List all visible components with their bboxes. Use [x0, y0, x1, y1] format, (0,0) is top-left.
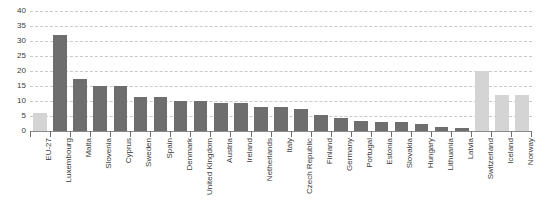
- bar[interactable]: [274, 107, 288, 131]
- bar[interactable]: [314, 115, 328, 132]
- x-label-cell: EU-27: [30, 137, 50, 212]
- y-tick-label: 15: [0, 82, 26, 90]
- bar-slot: [130, 2, 150, 131]
- x-axis-labels: EU-27LuxembourgMaltaSloveniaCyprusSweden…: [30, 137, 532, 212]
- bar[interactable]: [475, 71, 489, 131]
- bar-slot: [391, 2, 411, 131]
- y-tick-label: 20: [0, 67, 26, 75]
- bar-slot: [50, 2, 70, 131]
- bar-slot: [411, 2, 431, 131]
- x-label-cell: Portugal: [351, 137, 371, 212]
- bar[interactable]: [375, 122, 389, 131]
- bar[interactable]: [134, 97, 148, 132]
- x-label-cell: Switzerland: [472, 137, 492, 212]
- x-label-cell: Iceland: [492, 137, 512, 212]
- bar[interactable]: [354, 121, 368, 132]
- y-tick-label: 25: [0, 52, 26, 60]
- bar[interactable]: [515, 95, 529, 131]
- bar-slot: [70, 2, 90, 131]
- bar-slot: [231, 2, 251, 131]
- plot-area: [30, 2, 532, 131]
- bar-slot: [30, 2, 50, 131]
- x-label-cell: Finland: [311, 137, 331, 212]
- bar[interactable]: [33, 113, 47, 131]
- x-label-cell: Germany: [331, 137, 351, 212]
- x-label-cell: Sweden: [130, 137, 150, 212]
- x-label-cell: Latvia: [452, 137, 472, 212]
- x-label-cell: Lithuania: [432, 137, 452, 212]
- bar-slot: [171, 2, 191, 131]
- y-axis: 0510152025303540: [0, 2, 26, 131]
- bar-slot: [472, 2, 492, 131]
- bar-slot: [291, 2, 311, 131]
- x-axis-label: Norway: [526, 138, 535, 165]
- bar-slot: [90, 2, 110, 131]
- y-tick-label: 35: [0, 22, 26, 30]
- x-label-cell: Spain: [150, 137, 170, 212]
- bar[interactable]: [294, 109, 308, 132]
- bar-slot: [211, 2, 231, 131]
- x-label-cell: Cyprus: [110, 137, 130, 212]
- y-tick-label: 30: [0, 37, 26, 45]
- bar[interactable]: [93, 86, 107, 131]
- bar[interactable]: [154, 97, 168, 132]
- bar[interactable]: [254, 107, 268, 131]
- bar-slot: [311, 2, 331, 131]
- y-tick-label: 10: [0, 97, 26, 105]
- x-label-cell: Netherlands: [251, 137, 271, 212]
- x-label-cell: Austria: [211, 137, 231, 212]
- x-axis: EU-27LuxembourgMaltaSloveniaCyprusSweden…: [30, 131, 532, 212]
- bar-chart: 0510152025303540 EU-27LuxembourgMaltaSlo…: [0, 0, 536, 212]
- x-label-cell: Malta: [70, 137, 90, 212]
- x-label-cell: Estonia: [371, 137, 391, 212]
- bar[interactable]: [53, 35, 67, 131]
- bar-slot: [432, 2, 452, 131]
- bar-slot: [251, 2, 271, 131]
- bar[interactable]: [415, 124, 429, 132]
- bar[interactable]: [214, 103, 228, 132]
- bar[interactable]: [234, 103, 248, 132]
- bar-slot: [271, 2, 291, 131]
- x-label-cell: Norway: [512, 137, 532, 212]
- y-tick-label: 40: [0, 7, 26, 15]
- bar[interactable]: [495, 95, 509, 131]
- bar-slot: [351, 2, 371, 131]
- x-label-cell: Slovakia: [391, 137, 411, 212]
- bar-slot: [191, 2, 211, 131]
- x-label-cell: Slovenia: [90, 137, 110, 212]
- bar[interactable]: [73, 79, 87, 132]
- x-label-cell: Denmark: [171, 137, 191, 212]
- x-label-cell: United Kingdom: [191, 137, 211, 212]
- bar-slot: [331, 2, 351, 131]
- bar[interactable]: [395, 122, 409, 131]
- bar[interactable]: [334, 118, 348, 132]
- bar-slot: [110, 2, 130, 131]
- bar[interactable]: [174, 101, 188, 131]
- y-tick-label: 5: [0, 112, 26, 120]
- bar-slot: [512, 2, 532, 131]
- x-label-cell: Luxembourg: [50, 137, 70, 212]
- bar-slot: [371, 2, 391, 131]
- x-label-cell: Czech Republic: [291, 137, 311, 212]
- bar-slot: [452, 2, 472, 131]
- bars-container: [30, 2, 532, 131]
- y-tick-label: 0: [0, 127, 26, 135]
- x-label-cell: Italy: [271, 137, 291, 212]
- bar[interactable]: [194, 101, 208, 131]
- x-label-cell: Ireland: [231, 137, 251, 212]
- x-label-cell: Hungary: [411, 137, 431, 212]
- bar-slot: [492, 2, 512, 131]
- bar[interactable]: [114, 86, 128, 131]
- bar-slot: [150, 2, 170, 131]
